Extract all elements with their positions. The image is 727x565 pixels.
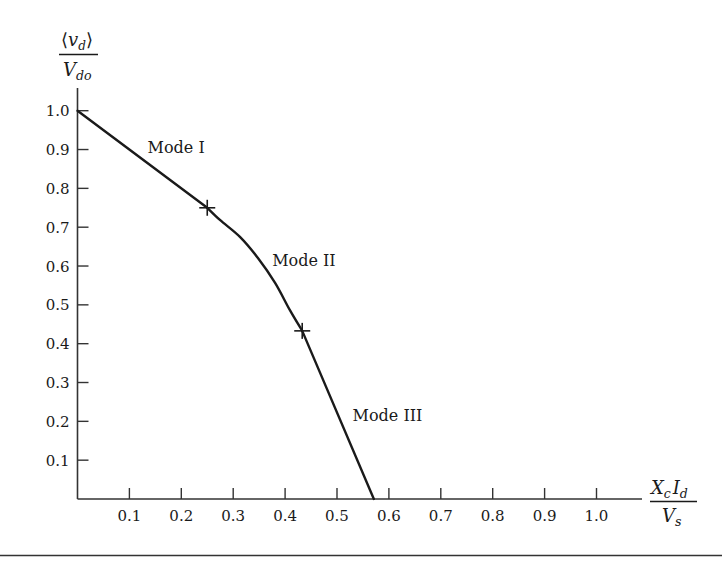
mode-label: Mode II bbox=[272, 251, 335, 270]
x-tick-label: 0.6 bbox=[377, 507, 401, 525]
x-tick-label: 0.3 bbox=[221, 507, 245, 525]
y-label-numerator: ⟨vd⟩ bbox=[61, 29, 93, 53]
x-tick-label: 0.4 bbox=[273, 507, 297, 525]
mode-label: Mode I bbox=[148, 138, 205, 157]
x-tick-label: 0.9 bbox=[533, 507, 557, 525]
y-tick-label: 0.9 bbox=[46, 141, 70, 159]
mode-label: Mode III bbox=[353, 406, 423, 425]
y-tick-label: 0.5 bbox=[46, 296, 70, 314]
axis-ticks: 0.10.20.30.40.50.60.70.80.91.00.10.20.30… bbox=[46, 102, 609, 525]
x-tick-label: 0.8 bbox=[481, 507, 505, 525]
y-label-denominator: Vdo bbox=[63, 59, 92, 83]
mode-annotations: Mode IMode IIMode III bbox=[148, 138, 423, 425]
x-label-numerator: Xc Id bbox=[649, 477, 690, 501]
x-tick-label: 0.2 bbox=[169, 507, 193, 525]
curve-mode-i bbox=[78, 111, 208, 208]
y-tick-label: 0.1 bbox=[46, 452, 70, 470]
x-tick-label: 0.7 bbox=[429, 507, 453, 525]
x-tick-label: 1.0 bbox=[585, 507, 609, 525]
chart-figure: 0.10.20.30.40.50.60.70.80.91.00.10.20.30… bbox=[0, 0, 727, 565]
y-tick-label: 0.4 bbox=[46, 335, 70, 353]
x-tick-label: 0.5 bbox=[325, 507, 349, 525]
y-axis-label: ⟨vd⟩Vdo bbox=[59, 29, 98, 83]
y-tick-label: 0.3 bbox=[46, 374, 70, 392]
x-label-denominator: Vs bbox=[662, 505, 682, 529]
y-tick-label: 0.8 bbox=[46, 180, 70, 198]
x-tick-label: 0.1 bbox=[117, 507, 141, 525]
y-tick-label: 0.2 bbox=[46, 413, 70, 431]
y-tick-label: 1.0 bbox=[46, 102, 70, 120]
data-curve bbox=[78, 111, 374, 499]
x-axis-label: Xc Id Vs bbox=[649, 477, 697, 529]
plus-marker-icon bbox=[294, 323, 310, 339]
y-tick-label: 0.7 bbox=[46, 219, 70, 237]
y-tick-label: 0.6 bbox=[46, 258, 70, 276]
